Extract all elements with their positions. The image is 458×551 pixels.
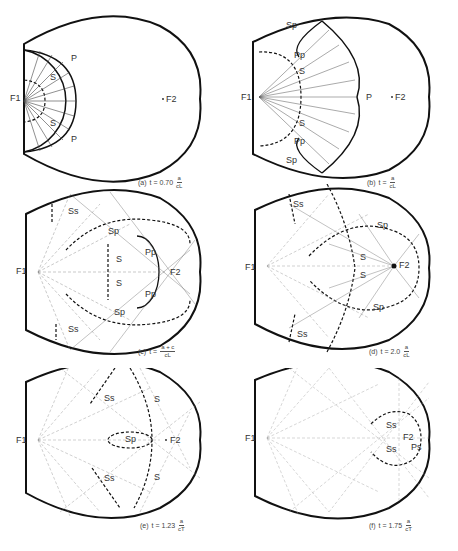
panel-c: F1 F2 S S Pp Pp Sp Sp Ss Ss (c) t = a + … (0, 184, 229, 368)
label-sp-top: Sp (108, 226, 119, 236)
caption-time: t = 2.0 (381, 348, 401, 355)
caption-c: (c) t = a + ccL (138, 344, 175, 359)
ellipse-diagram-c (0, 184, 229, 368)
label-p-bottom: P (71, 134, 77, 144)
frac-num: a (390, 175, 395, 183)
frac-num: a (404, 344, 409, 352)
frac-num: a (406, 518, 411, 526)
caption-fraction: acL (403, 344, 409, 359)
label-ss-bottom: Ss (104, 473, 115, 483)
label-s-top: S (299, 66, 305, 76)
caption-fraction: acT (405, 518, 412, 533)
label-ss-top: Ss (104, 393, 115, 403)
caption-time: t = 1.75 (379, 522, 403, 529)
label-f2: F2 (399, 260, 410, 270)
label-p-top: P (71, 53, 77, 63)
label-sp-top: Sp (286, 20, 297, 30)
label-ss-bottom: Ss (68, 324, 79, 334)
label-f2: F2 (395, 92, 406, 102)
frac-den: cL (165, 352, 171, 359)
label-f1: F1 (245, 262, 256, 272)
label-s-bottom: S (50, 118, 56, 128)
ellipse-diagram-b (229, 0, 458, 184)
label-ss-top: Ss (68, 206, 79, 216)
label-ss-bottom: Ss (297, 329, 308, 339)
panel-d: F1 F2 S S Sp Sp Ss Ss (d) t = 2.0 acL (229, 184, 458, 368)
ellipse-diagram-f (229, 368, 458, 551)
label-f1: F1 (241, 92, 252, 102)
label-f1: F1 (16, 435, 27, 445)
panel-a: F1 F2 P P S S (a) t = 0.70 acL (0, 0, 229, 184)
ellipse-diagram-d (229, 184, 458, 368)
label-p: P (366, 92, 372, 102)
label-sp-bottom: Sp (114, 307, 125, 317)
panel-b: F1 F2 P S S Pp Pp Sp Sp (b) t = acL (229, 0, 458, 184)
frac-num: a + c (160, 344, 175, 352)
caption-fraction: a + ccL (160, 344, 175, 359)
caption-e: (e) t = 1.23 acT (140, 518, 185, 533)
label-ps: Ps (411, 442, 422, 452)
label-s-bottom: S (360, 270, 366, 280)
panel-e: F1 F2 Sp S S Ss Ss (e) t = 1.23 acT (0, 368, 229, 551)
caption-d: (d) t = 2.0 acL (369, 344, 410, 359)
caption-fraction: acT (178, 518, 185, 533)
label-s-bottom: S (116, 278, 122, 288)
label-f1: F1 (10, 93, 21, 103)
frac-den: cL (403, 352, 409, 359)
label-s-top: S (50, 72, 56, 82)
caption-time: t = (149, 348, 157, 355)
label-sp-top: Sp (377, 220, 388, 230)
caption-tag: (d) (369, 348, 378, 355)
caption-tag: (e) (140, 522, 149, 529)
frac-num: a (179, 518, 184, 526)
label-ss-top: Ss (293, 199, 304, 209)
caption-tag: (f) (369, 522, 376, 529)
caption-time: t = 1.23 (152, 522, 176, 529)
caption-f: (f) t = 1.75 acT (369, 518, 412, 533)
label-pp-bottom: Pp (294, 136, 305, 146)
label-f2: F2 (166, 94, 177, 104)
label-f2: F2 (170, 435, 181, 445)
panel-f: F1 F2 Ss Ss Ps (f) t = 1.75 acT (229, 368, 458, 551)
frac-num: a (177, 175, 182, 183)
label-f2: F2 (403, 432, 414, 442)
label-s-bottom: S (299, 118, 305, 128)
caption-tag: (c) (138, 348, 146, 355)
label-s-top: S (116, 254, 122, 264)
label-sp-bottom: Sp (373, 302, 384, 312)
label-pp-bottom: Pp (145, 289, 156, 299)
frac-den: cT (405, 526, 412, 533)
label-pp-top: Pp (294, 50, 305, 60)
label-f1: F1 (16, 266, 27, 276)
label-f2: F2 (170, 267, 181, 277)
label-sp: Sp (125, 434, 136, 444)
label-f1: F1 (245, 433, 256, 443)
label-s-top: S (360, 252, 366, 262)
label-pp-top: Pp (145, 247, 156, 257)
label-s-top: S (154, 394, 160, 404)
ellipse-diagram-a (0, 0, 229, 184)
label-s-bottom: S (154, 472, 160, 482)
label-ss-top: Ss (386, 420, 397, 430)
label-sp-bottom: Sp (286, 155, 297, 165)
frac-den: cT (178, 526, 185, 533)
label-ss-bottom: Ss (386, 444, 397, 454)
